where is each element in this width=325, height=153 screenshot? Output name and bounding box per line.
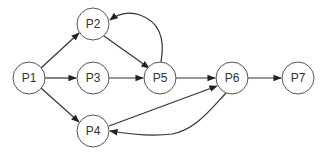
node-p2: P2 — [77, 8, 109, 40]
edge-p5-p2 — [110, 13, 162, 62]
node-p6: P6 — [216, 62, 248, 94]
edge-p1-p2 — [41, 33, 79, 68]
node-p1: P1 — [13, 62, 45, 94]
process-graph: P1 P2 P3 P4 P5 P6 P7 — [0, 0, 325, 153]
node-p5: P5 — [144, 62, 176, 94]
edge-p1-p4 — [41, 88, 79, 122]
node-p7: P7 — [282, 62, 314, 94]
node-label: P6 — [225, 71, 240, 85]
node-label: P4 — [86, 124, 101, 138]
edge-p2-p5 — [104, 36, 149, 68]
node-label: P5 — [153, 71, 168, 85]
node-label: P1 — [22, 71, 37, 85]
node-label: P3 — [86, 71, 101, 85]
node-label: P2 — [86, 17, 101, 31]
edge-p6-p4 — [110, 93, 226, 135]
node-label: P7 — [291, 71, 306, 85]
node-p4: P4 — [77, 115, 109, 147]
node-p3: P3 — [77, 62, 109, 94]
